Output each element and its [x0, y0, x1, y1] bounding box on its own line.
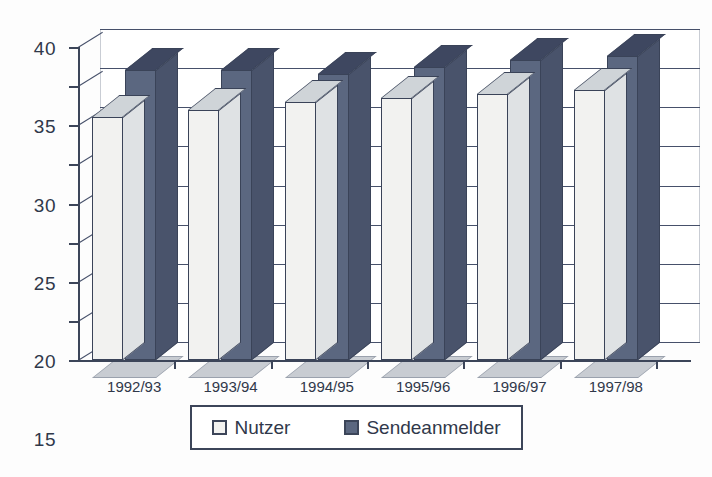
bar-nutzer-1995-96[interactable] [381, 98, 412, 360]
y-axis-tick-label: 25 [34, 273, 56, 295]
y-axis-tick-label: 35 [34, 116, 56, 138]
legend-item-sendeanmelder[interactable]: Sendeanmelder [344, 417, 500, 439]
y-axis-tick: 15 [69, 243, 78, 245]
legend-swatch-nutzer [212, 420, 227, 435]
y-axis-tick: 35 [69, 86, 78, 88]
bar-nutzer-1997-98[interactable] [574, 90, 605, 360]
bar-front-face [574, 90, 605, 360]
bar-front-face [477, 94, 508, 360]
y-axis-tick: 10 [69, 282, 78, 284]
x-axis-tick [656, 360, 658, 369]
x-axis-tick [560, 360, 562, 369]
x-axis-tick-label: 1992/93 [107, 378, 161, 395]
chart-container: 0510152025303540 1992/931993/941994/9519… [0, 0, 712, 477]
bar-side-face [605, 73, 627, 360]
legend-item-nutzer[interactable]: Nutzer [212, 417, 290, 439]
bar-side-face [219, 92, 241, 360]
bar-side-face [156, 53, 178, 360]
y-axis-tick-label: 20 [34, 351, 56, 373]
bar-side-face [316, 84, 338, 360]
gridline [100, 29, 700, 30]
y-axis-tick: 0 [69, 360, 78, 362]
legend-swatch-sendeanmelder [344, 420, 359, 435]
y-axis-tick: 5 [69, 321, 78, 323]
bar-side-face [412, 80, 434, 360]
y-axis-tick-label: 30 [34, 195, 56, 217]
bar-nutzer-1996-97[interactable] [477, 94, 508, 360]
x-axis-tick [271, 360, 273, 369]
y-axis-tick: 25 [69, 164, 78, 166]
bar-front-face [285, 102, 316, 360]
y-axis-tick-label: 15 [34, 429, 56, 451]
chart-legend: Nutzer Sendeanmelder [190, 405, 523, 450]
legend-label-nutzer: Nutzer [234, 417, 290, 439]
bar-front-face [188, 110, 219, 360]
y-axis [78, 47, 80, 360]
x-axis [78, 360, 691, 362]
x-axis-tick-label: 1996/97 [492, 378, 546, 395]
bar-nutzer-1992-93[interactable] [92, 117, 123, 360]
bar-side-face [508, 76, 530, 360]
y-axis-tick: 20 [69, 204, 78, 206]
bar-side-face [252, 53, 274, 360]
x-axis-tick-label: 1997/98 [589, 378, 643, 395]
bar-nutzer-1993-94[interactable] [188, 110, 219, 360]
legend-label-sendeanmelder: Sendeanmelder [366, 417, 500, 439]
bar-side-face [349, 57, 371, 360]
y-axis-tick-label: 40 [34, 38, 56, 60]
bar-nutzer-1994-95[interactable] [285, 102, 316, 360]
bar-front-face [381, 98, 412, 360]
x-axis-tick-label: 1994/95 [300, 378, 354, 395]
bar-side-face [541, 43, 563, 360]
x-axis-tick-label: 1995/96 [396, 378, 450, 395]
bar-side-face [123, 100, 145, 360]
y-axis-tick: 30 [69, 125, 78, 127]
bar-front-face [92, 117, 123, 360]
plot-area: 0510152025303540 1992/931993/941994/9519… [78, 47, 678, 360]
bar-side-face [638, 39, 660, 360]
x-axis-tick [174, 360, 176, 369]
bar-side-face [445, 49, 467, 360]
x-axis-tick [463, 360, 465, 369]
x-axis-tick [367, 360, 369, 369]
x-axis-tick-label: 1993/94 [203, 378, 257, 395]
y-axis-tick: 40 [69, 47, 78, 49]
